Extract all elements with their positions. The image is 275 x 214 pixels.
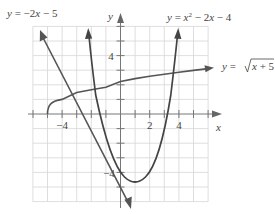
- curve-sqrt-arrow-icon: [205, 65, 215, 72]
- x-axis-label: x: [215, 121, 221, 133]
- x-axis-arrow-icon: [212, 111, 222, 118]
- y-tick-label-4: 4: [108, 50, 114, 62]
- equation-parabola-label: y = x2 − 2x − 4: [166, 11, 232, 23]
- svg-text:x + 5: x + 5: [251, 60, 275, 72]
- equation-line-label: y = −2x − 5: [6, 7, 58, 19]
- graph-canvas: −4 2 4 x 4 −4 y y = −2x − 5 y = x2 − 2x …: [0, 0, 275, 214]
- x-tick-label-4: 4: [176, 119, 182, 131]
- svg-text:y =: y =: [221, 60, 236, 72]
- axes: [28, 13, 222, 208]
- x-tick-label-neg4: −4: [56, 119, 68, 131]
- equation-sqrt-label: y = x + 5: [221, 59, 275, 72]
- y-axis-arrow-icon: [117, 13, 124, 23]
- x-tick-label-2: 2: [147, 119, 153, 131]
- parabola-arrow-right-icon: [174, 28, 181, 39]
- y-axis-label: y: [107, 10, 113, 22]
